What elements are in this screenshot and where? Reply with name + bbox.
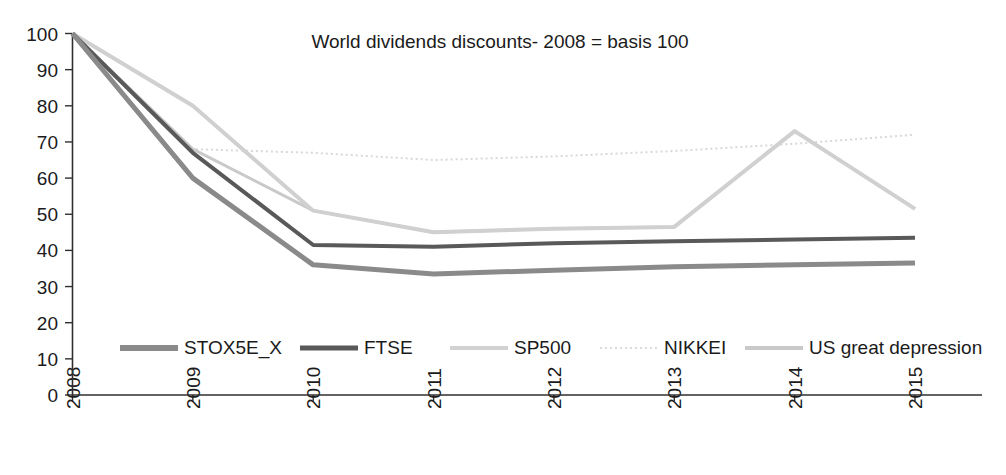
legend-label: SP500 <box>514 337 571 358</box>
legend-label: NIKKEI <box>664 337 726 358</box>
x-tick-label: 2009 <box>183 367 204 409</box>
y-tick-label: 50 <box>37 204 58 225</box>
legend-label: STOX5E_X <box>184 337 282 359</box>
y-tick-label: 20 <box>37 313 58 334</box>
x-tick-label: 2011 <box>424 368 445 409</box>
y-tick-label: 0 <box>47 385 58 406</box>
y-tick-label: 100 <box>26 24 58 45</box>
x-tick-label: 2013 <box>664 367 685 409</box>
legend-item-stox5e-x: STOX5E_X <box>120 337 282 359</box>
series-lines <box>73 34 916 274</box>
x-axis-ticks: 20082009201020112012201320142015 <box>63 366 927 409</box>
legend-item-us-great-depression: US great depression <box>745 337 982 358</box>
y-axis-ticks: 1009080706050403020100 <box>26 24 72 407</box>
x-tick-label: 2012 <box>544 367 565 409</box>
legend-label: FTSE <box>364 337 413 358</box>
series-line-us-great-depression <box>73 34 916 233</box>
series-line-ftse <box>73 34 916 247</box>
line-chart: 1009080706050403020100 20082009201020112… <box>0 0 1006 475</box>
legend-item-ftse: FTSE <box>300 337 413 358</box>
chart-container: 1009080706050403020100 20082009201020112… <box>0 0 1006 475</box>
y-tick-label: 70 <box>37 132 58 153</box>
legend-item-sp500: SP500 <box>450 337 571 358</box>
chart-title: World dividends discounts- 2008 = basis … <box>311 31 688 52</box>
x-tick-label: 2015 <box>905 367 926 409</box>
legend-item-nikkei: NIKKEI <box>600 337 726 358</box>
y-tick-label: 30 <box>37 277 58 298</box>
y-tick-label: 90 <box>37 60 58 81</box>
x-tick-label: 2014 <box>785 366 806 409</box>
chart-legend: STOX5E_XFTSESP500NIKKEIUS great depressi… <box>120 337 982 359</box>
y-tick-label: 80 <box>37 96 58 117</box>
legend-label: US great depression <box>809 337 982 358</box>
y-tick-label: 60 <box>37 168 58 189</box>
y-tick-label: 10 <box>37 349 58 370</box>
series-line-nikkei <box>73 34 916 161</box>
series-line-sp500 <box>73 34 916 233</box>
x-tick-label: 2010 <box>303 367 324 409</box>
y-tick-label: 40 <box>37 240 58 261</box>
